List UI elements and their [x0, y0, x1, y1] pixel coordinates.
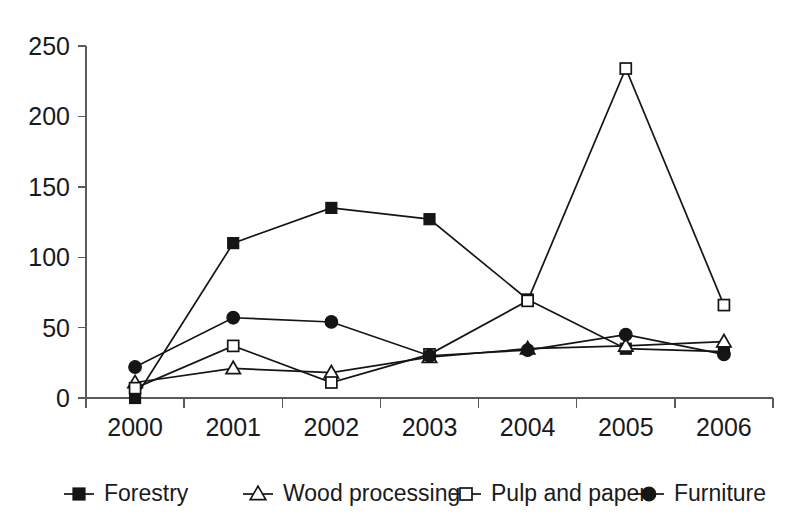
y-tick-label: 0: [56, 384, 70, 412]
data-point: [326, 202, 337, 213]
legend-label: Wood processing: [283, 480, 460, 506]
legend-item-pulp-and-paper[interactable]: Pulp and paper: [451, 480, 647, 506]
x-tick-label: 2004: [500, 413, 556, 441]
series-pulp-and-paper: [135, 69, 724, 389]
legend-label: Furniture: [674, 480, 766, 506]
x-tick-label: 2002: [304, 413, 360, 441]
markers-furniture: [129, 311, 730, 373]
y-axis-tick-labels: 050100150200250: [28, 32, 70, 412]
y-tick-label: 100: [28, 243, 70, 271]
legend-label: Pulp and paper: [491, 480, 647, 506]
y-tick-label: 200: [28, 102, 70, 130]
data-point: [129, 361, 142, 374]
data-point: [226, 361, 240, 373]
data-point: [423, 349, 436, 362]
data-point: [228, 238, 239, 249]
x-tick-label: 2003: [402, 413, 458, 441]
legend-item-forestry[interactable]: Forestry: [64, 480, 189, 506]
legend-marker-open-square-icon: [460, 488, 472, 500]
y-tick-label: 150: [28, 173, 70, 201]
legend-item-wood-processing[interactable]: Wood processing: [243, 480, 460, 506]
legend-label: Forestry: [104, 480, 189, 506]
data-point: [619, 328, 632, 341]
data-point: [326, 377, 337, 388]
markers-forestry: [130, 202, 730, 403]
y-tick-label: 50: [42, 314, 70, 342]
x-tick-label: 2001: [205, 413, 261, 441]
series-polyline: [135, 69, 724, 389]
legend-marker-filled-circle-icon: [642, 487, 656, 501]
data-point: [718, 348, 731, 361]
data-point: [424, 214, 435, 225]
chart-legend: ForestryWood processingPulp and paperFur…: [64, 480, 766, 506]
legend-marker-open-triangle-icon: [250, 486, 266, 499]
x-axis-tick-labels: 2000200120022003200420052006: [107, 413, 751, 441]
legend-marker-filled-square-icon: [73, 488, 85, 500]
data-point: [325, 316, 338, 329]
data-point: [522, 295, 533, 306]
data-point: [521, 344, 534, 357]
x-tick-label: 2000: [107, 413, 163, 441]
data-point: [228, 340, 239, 351]
x-tick-label: 2005: [598, 413, 654, 441]
legend-item-furniture[interactable]: Furniture: [634, 480, 766, 506]
x-tick-label: 2006: [696, 413, 752, 441]
line-chart: 050100150200250 200020012002200320042005…: [0, 0, 811, 527]
data-point: [717, 335, 731, 347]
markers-pulp-and-paper: [130, 63, 730, 394]
data-point: [620, 63, 631, 74]
data-point: [130, 383, 141, 394]
data-point: [718, 300, 729, 311]
y-tick-label: 250: [28, 32, 70, 60]
data-series-group: [128, 63, 731, 403]
chart-canvas: 050100150200250 200020012002200320042005…: [0, 0, 811, 527]
data-point: [227, 311, 240, 324]
